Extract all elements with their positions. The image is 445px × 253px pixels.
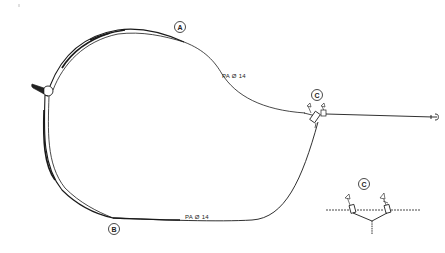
c-float-junction <box>304 103 326 128</box>
label-a-text: A <box>177 24 182 31</box>
label-b-marker: B <box>109 224 120 235</box>
lower-line-annotation: PA Ø 14 <box>185 214 209 220</box>
inset-c-text: C <box>361 181 366 188</box>
label-c-text: C <box>314 92 319 99</box>
upper-rope-arc <box>50 29 305 113</box>
diagram-canvas: A B C PA Ø 14 PA Ø 14 C <box>0 0 445 253</box>
anchor-line <box>326 114 433 117</box>
upper-line-annotation: PA Ø 14 <box>222 73 246 79</box>
label-a-marker: A <box>175 22 186 33</box>
label-b-text: B <box>111 226 116 233</box>
inset-detail-c: C <box>326 179 420 235</box>
lower-rope-arc <box>44 95 318 221</box>
label-c-marker: C <box>312 90 323 101</box>
